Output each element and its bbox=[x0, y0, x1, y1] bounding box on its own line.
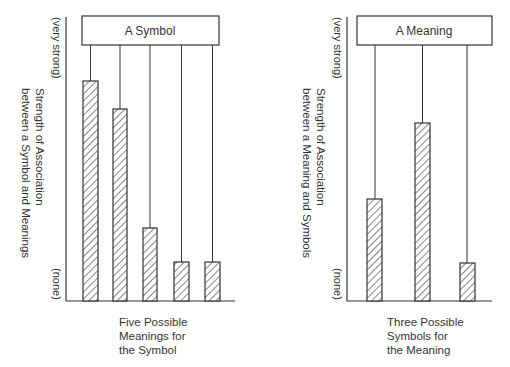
symbol-box-label: A Symbol bbox=[125, 24, 176, 38]
bars bbox=[367, 123, 475, 301]
caption-line2: Meanings for bbox=[119, 330, 186, 342]
caption-line3: the Meaning bbox=[387, 344, 450, 356]
caption-line3: the Symbol bbox=[119, 344, 177, 356]
meaning-box-label: A Meaning bbox=[396, 24, 453, 38]
y-axis-top-label: (very strong) bbox=[332, 17, 344, 79]
diagram-canvas: A Symbol (very strong) (none) Strength o… bbox=[0, 0, 510, 367]
bars bbox=[83, 81, 220, 301]
y-axis-title-line2: between a Symbol and Meanings bbox=[20, 88, 32, 258]
caption-line1: Five Possible bbox=[119, 316, 187, 328]
caption-line1: Three Possible bbox=[387, 316, 464, 328]
caption-line2: Symbols for bbox=[387, 330, 448, 342]
bar-meaning-4 bbox=[174, 262, 189, 301]
bar-meaning-3 bbox=[143, 228, 157, 301]
y-axis-title-line1: Strength of Association bbox=[315, 88, 327, 206]
symbol-chart: A Symbol (very strong) (none) Strength o… bbox=[20, 16, 235, 356]
bar-meaning-1 bbox=[83, 81, 98, 301]
y-axis-title-line1: Strength of Association bbox=[34, 88, 46, 206]
bar-symbol-2 bbox=[415, 123, 430, 301]
y-axis-title-line2: between a Meaning and Symbols bbox=[301, 88, 313, 258]
y-axis-bottom-label: (none) bbox=[332, 268, 344, 300]
y-axis-top-label: (very strong) bbox=[51, 17, 63, 79]
meaning-chart: A Meaning (very strong) (none) Strength … bbox=[301, 16, 492, 356]
bar-symbol-1 bbox=[367, 199, 382, 301]
y-axis-bottom-label: (none) bbox=[51, 268, 63, 300]
bar-meaning-5 bbox=[205, 262, 220, 301]
bar-symbol-3 bbox=[460, 263, 475, 301]
bar-meaning-2 bbox=[113, 109, 127, 301]
